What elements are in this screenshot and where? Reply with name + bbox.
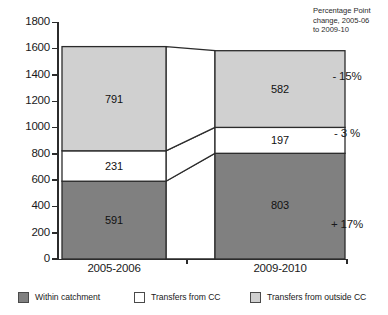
bar-label-2009-2010-outside-cc: 582 — [215, 83, 345, 95]
bar-label-2005-2006-within: 591 — [62, 214, 166, 226]
legend-label-transfers-from-cc: Transfers from CC — [151, 292, 221, 302]
annotation-header-line1: Percentage Point — [313, 6, 388, 16]
legend-label-within-catchment: Within catchment — [35, 292, 100, 302]
chart-root: 1800 1600 1400 1200 1000 800 600 400 200… — [0, 0, 388, 315]
legend-item-transfers-outside-cc: Transfers from outside CC — [250, 289, 366, 305]
bar-label-2005-2006-from-cc: 231 — [62, 160, 166, 172]
legend-swatch-transfers-from-cc — [134, 292, 145, 303]
legend-item-transfers-from-cc: Transfers from CC — [134, 289, 221, 305]
annotation-value-outside-cc: - 15% — [313, 70, 381, 82]
legend-swatch-within-catchment — [18, 292, 29, 303]
legend-item-within-catchment: Within catchment — [18, 289, 100, 305]
x-axis-label-2009-2010: 2009-2010 — [215, 262, 345, 274]
annotation-value-within: + 17% — [313, 218, 381, 230]
x-axis-label-2005-2006: 2005-2006 — [62, 262, 166, 274]
bar-label-2005-2006-outside-cc: 791 — [62, 93, 166, 105]
legend-label-transfers-outside-cc: Transfers from outside CC — [267, 292, 366, 302]
legend-swatch-transfers-outside-cc — [250, 292, 261, 303]
chart-legend: Within catchment Transfers from CC Trans… — [0, 281, 388, 315]
chart-plot-area: 1800 1600 1400 1200 1000 800 600 400 200… — [0, 0, 388, 280]
annotation-header: Percentage Point change, 2005-06 to 2009… — [313, 6, 388, 35]
annotation-header-line2: change, 2005-06 — [313, 16, 388, 26]
annotation-header-line3: to 2009-10 — [313, 25, 388, 35]
annotation-value-from-cc: - 3 % — [313, 127, 381, 139]
bar-label-2009-2010-within: 803 — [215, 199, 345, 211]
